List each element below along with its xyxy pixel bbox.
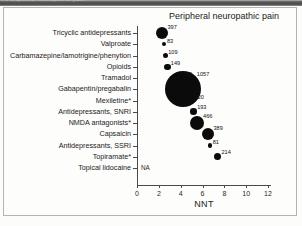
y-tick <box>133 89 137 90</box>
data-point-bubble <box>162 42 166 46</box>
plot-area: Peripheral neuropathic pain 024681012 Tr… <box>0 0 302 226</box>
data-point-bubble <box>208 143 212 147</box>
y-axis-category-label: Antidepressants, SSRI <box>59 142 131 150</box>
x-tick-label: 0 <box>129 190 145 197</box>
x-tick <box>203 185 204 188</box>
y-axis-category-label: Valproate <box>101 40 131 48</box>
y-axis-category-label: Capsaicin <box>99 130 131 138</box>
y-axis-category-label: Opioids <box>107 63 131 71</box>
x-tick <box>181 185 182 188</box>
y-axis-category-label: Tricyclic antidepressants <box>53 29 131 37</box>
y-tick <box>133 157 137 158</box>
x-tick <box>137 185 138 188</box>
y-tick <box>133 112 137 113</box>
data-point-value-label: 466 <box>203 113 212 119</box>
y-tick <box>133 44 137 45</box>
y-axis-category-label: NMDA antagonists* <box>69 119 131 127</box>
x-tick-label: 2 <box>151 190 167 197</box>
data-point-value-label: 1057 <box>197 71 209 77</box>
data-point-value-label: 150 <box>183 71 192 77</box>
y-axis-category-label: Tramadol <box>101 74 131 82</box>
data-point-value-label: 397 <box>167 24 176 30</box>
y-tick <box>133 101 137 102</box>
y-tick <box>133 134 137 135</box>
y-tick <box>133 67 137 68</box>
data-point-na-label: NA <box>141 164 150 171</box>
data-point-value-label: 214 <box>221 149 230 155</box>
x-tick-label: 10 <box>238 190 254 197</box>
data-point-value-label: 120 <box>195 94 204 100</box>
y-tick <box>133 146 137 147</box>
data-point-bubble <box>164 64 170 70</box>
y-axis-category-label: Antidepressants, SNRI <box>58 108 131 116</box>
x-tick-label: 8 <box>216 190 232 197</box>
data-point-value-label: 109 <box>168 49 177 55</box>
x-tick-label: 12 <box>260 190 276 197</box>
x-tick <box>246 185 247 188</box>
x-tick <box>159 185 160 188</box>
x-axis-line <box>137 185 271 186</box>
y-tick <box>133 33 137 34</box>
data-point-bubble <box>163 53 168 58</box>
data-point-bubble <box>190 108 197 115</box>
y-tick <box>133 78 137 79</box>
figure-container: Peripheral neuropathic pain Peripheral n… <box>0 0 302 226</box>
data-point-bubble <box>190 116 204 130</box>
x-tick <box>224 185 225 188</box>
data-point-bubble <box>176 75 182 81</box>
x-tick <box>268 185 269 188</box>
data-point-value-label: 193 <box>197 104 206 110</box>
y-axis-category-label: Carbamazepine/lamotrigine/phenytion <box>10 52 131 60</box>
x-tick-label: 6 <box>195 190 211 197</box>
data-point-value-label: 81 <box>213 139 219 145</box>
data-point-value-label: 149 <box>171 60 180 66</box>
x-axis-title: NNT <box>137 199 271 209</box>
y-tick <box>133 56 137 57</box>
y-axis-category-label: Topiramate* <box>93 153 131 161</box>
data-point-bubble <box>214 153 221 160</box>
chart-title: Peripheral neuropathic pain <box>150 11 298 21</box>
data-point-value-label: 389 <box>213 125 222 131</box>
x-tick-label: 4 <box>173 190 189 197</box>
y-axis-category-label: Topical lidocaine <box>78 164 131 172</box>
y-axis-line <box>137 26 138 186</box>
data-point-value-label: 83 <box>167 38 173 44</box>
y-axis-category-label: Mexiletine* <box>96 97 131 105</box>
y-tick <box>133 168 137 169</box>
y-axis-category-label: Gabapentin/pregabalin <box>58 85 131 93</box>
y-tick <box>133 123 137 124</box>
